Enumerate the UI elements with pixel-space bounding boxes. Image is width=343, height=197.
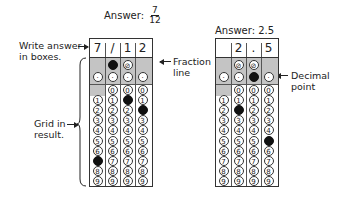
bubble-digit-3[interactable]: 3 <box>219 115 229 125</box>
bubble-digit-4[interactable]: 4 <box>264 125 274 135</box>
bubble-digit-4[interactable]: 4 <box>93 125 103 135</box>
bubble-digit-4[interactable]: 4 <box>138 125 148 135</box>
bubble-digit-7[interactable]: 7 <box>138 156 148 166</box>
bubble-digit-8[interactable]: 8 <box>108 166 118 176</box>
bubble-digit-5[interactable]: 5 <box>123 136 133 146</box>
bubble-digit-3[interactable]: 3 <box>234 115 244 125</box>
bubble-digit-2[interactable]: 2 <box>219 105 229 115</box>
bubble-digit-5[interactable]: 5 <box>264 136 274 146</box>
bubble-digit-0[interactable]: 0 <box>234 85 244 95</box>
bubble-digit-9[interactable]: 9 <box>138 176 148 186</box>
bubble-digit-5[interactable]: 5 <box>219 136 229 146</box>
answer-box[interactable]: 2 <box>231 39 246 57</box>
bubble-digit-8[interactable]: 8 <box>138 166 148 176</box>
bubble-digit-5[interactable]: 5 <box>108 136 118 146</box>
answer-box[interactable]: . <box>246 39 261 57</box>
bubble-digit-1[interactable]: 1 <box>234 95 244 105</box>
left-answer-grid: 7 / 1 2 ·123456789⊘·0123456789⊘·01234567… <box>89 38 153 187</box>
bubble-digit-6[interactable]: 6 <box>249 146 259 156</box>
bubble-digit-0[interactable]: 0 <box>264 85 274 95</box>
bubble-digit-6[interactable]: 6 <box>138 146 148 156</box>
bubble-digit-1[interactable]: 1 <box>93 95 103 105</box>
bubble-digit-3[interactable]: 3 <box>123 115 133 125</box>
bubble-digit-2[interactable]: 2 <box>138 105 148 115</box>
bubble-digit-9[interactable]: 9 <box>234 176 244 186</box>
bubble-digit-7[interactable]: 7 <box>93 156 103 166</box>
bubble-digit-3[interactable]: 3 <box>93 115 103 125</box>
bubble-digit-1[interactable]: 1 <box>264 95 274 105</box>
left-grid-title: Answer: 7 12 <box>104 6 161 25</box>
bubble-digit-0[interactable]: 0 <box>249 85 259 95</box>
bubble-digit-9[interactable]: 9 <box>219 176 229 186</box>
bubble-digit-3[interactable]: 3 <box>264 115 274 125</box>
bubble-digit-9[interactable]: 9 <box>249 176 259 186</box>
bubble-digit-8[interactable]: 8 <box>249 166 259 176</box>
bubble-digit-0[interactable]: 0 <box>138 85 148 95</box>
bubble-digit-8[interactable]: 8 <box>123 166 133 176</box>
bubble-slash[interactable]: ⊘ <box>234 60 244 70</box>
bubble-digit-1[interactable]: 1 <box>219 95 229 105</box>
bubble-slash[interactable]: ⊘ <box>108 60 118 70</box>
bubble-digit-2[interactable]: 2 <box>249 105 259 115</box>
bubble-digit-4[interactable]: 4 <box>234 125 244 135</box>
bubble-digit-7[interactable]: 7 <box>234 156 244 166</box>
answer-box[interactable]: 5 <box>261 39 276 57</box>
bubble-digit-5[interactable]: 5 <box>234 136 244 146</box>
bubble-digit-5[interactable]: 5 <box>138 136 148 146</box>
bubble-slash[interactable]: ⊘ <box>123 60 133 70</box>
bubble-decimal[interactable]: · <box>264 72 274 82</box>
bubble-digit-4[interactable]: 4 <box>249 125 259 135</box>
bubble-digit-7[interactable]: 7 <box>123 156 133 166</box>
bubble-digit-0[interactable]: 0 <box>123 85 133 95</box>
bubble-decimal[interactable]: · <box>219 72 229 82</box>
bubble-decimal[interactable]: · <box>138 72 148 82</box>
bubble-digit-6[interactable]: 6 <box>234 146 244 156</box>
bubble-digit-2[interactable]: 2 <box>264 105 274 115</box>
bubble-digit-7[interactable]: 7 <box>249 156 259 166</box>
bubble-digit-6[interactable]: 6 <box>219 146 229 156</box>
bubble-decimal[interactable]: · <box>108 72 118 82</box>
bubble-digit-2[interactable]: 2 <box>93 105 103 115</box>
bubble-digit-1[interactable]: 1 <box>249 95 259 105</box>
bubble-digit-8[interactable]: 8 <box>234 166 244 176</box>
bubble-digit-6[interactable]: 6 <box>264 146 274 156</box>
bubble-digit-9[interactable]: 9 <box>264 176 274 186</box>
bubble-digit-8[interactable]: 8 <box>219 166 229 176</box>
bubble-digit-9[interactable]: 9 <box>108 176 118 186</box>
bubble-decimal[interactable]: · <box>234 72 244 82</box>
bubble-digit-8[interactable]: 8 <box>264 166 274 176</box>
bubble-digit-7[interactable]: 7 <box>108 156 118 166</box>
bubble-digit-2[interactable]: 2 <box>108 105 118 115</box>
bubble-digit-6[interactable]: 6 <box>123 146 133 156</box>
bubble-slash[interactable]: ⊘ <box>249 60 259 70</box>
bubble-digit-4[interactable]: 4 <box>123 125 133 135</box>
bubble-digit-3[interactable]: 3 <box>138 115 148 125</box>
answer-box[interactable] <box>216 39 231 57</box>
bubble-digit-4[interactable]: 4 <box>219 125 229 135</box>
bubble-decimal[interactable]: · <box>249 72 259 82</box>
bubble-digit-9[interactable]: 9 <box>93 176 103 186</box>
bubble-digit-6[interactable]: 6 <box>108 146 118 156</box>
bubble-digit-3[interactable]: 3 <box>249 115 259 125</box>
answer-box[interactable]: 7 <box>90 39 105 57</box>
bubble-digit-1[interactable]: 1 <box>123 95 133 105</box>
bubble-digit-4[interactable]: 4 <box>108 125 118 135</box>
bubble-digit-6[interactable]: 6 <box>93 146 103 156</box>
bubble-decimal[interactable]: · <box>93 72 103 82</box>
bubble-digit-2[interactable]: 2 <box>234 105 244 115</box>
bubble-digit-5[interactable]: 5 <box>93 136 103 146</box>
answer-box[interactable]: 2 <box>135 39 150 57</box>
answer-box[interactable]: 1 <box>120 39 135 57</box>
bubble-digit-9[interactable]: 9 <box>123 176 133 186</box>
bubble-digit-5[interactable]: 5 <box>249 136 259 146</box>
bubble-digit-1[interactable]: 1 <box>138 95 148 105</box>
bubble-digit-8[interactable]: 8 <box>93 166 103 176</box>
bubble-digit-7[interactable]: 7 <box>264 156 274 166</box>
bubble-digit-2[interactable]: 2 <box>123 105 133 115</box>
answer-box[interactable]: / <box>105 39 120 57</box>
bubble-digit-0[interactable]: 0 <box>108 85 118 95</box>
bubble-digit-7[interactable]: 7 <box>219 156 229 166</box>
bubble-decimal[interactable]: · <box>123 72 133 82</box>
bubble-digit-3[interactable]: 3 <box>108 115 118 125</box>
bubble-digit-1[interactable]: 1 <box>108 95 118 105</box>
